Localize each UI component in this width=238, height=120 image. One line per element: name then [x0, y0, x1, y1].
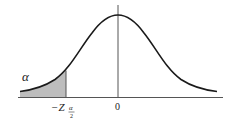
critical-value-label: −Z [51, 101, 65, 113]
critical-subscript-denominator: 2 [70, 113, 73, 119]
normal-curve-diagram: α −Z α 2 0 [0, 0, 238, 120]
critical-subscript-numerator: α [69, 104, 73, 112]
zero-label: 0 [115, 101, 120, 112]
alpha-label: α [22, 69, 30, 84]
